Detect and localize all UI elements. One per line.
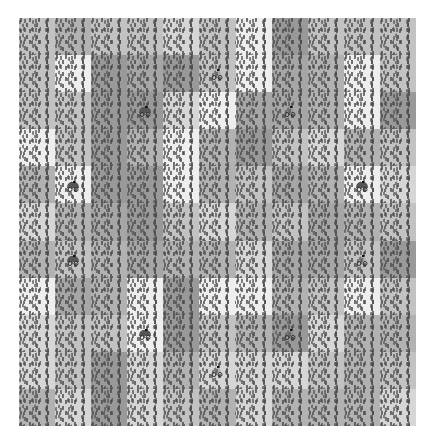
board-tile[interactable] <box>199 315 235 352</box>
board-tile[interactable] <box>236 92 272 129</box>
board-tile[interactable] <box>344 278 380 315</box>
board-tile[interactable] <box>380 55 416 92</box>
board-tile[interactable] <box>272 241 308 278</box>
board-tile[interactable] <box>272 55 308 92</box>
car-icon[interactable] <box>137 105 153 117</box>
board-tile[interactable] <box>91 389 127 426</box>
board-tile[interactable] <box>272 18 308 55</box>
board-tile[interactable] <box>127 241 163 278</box>
board-tile[interactable] <box>127 352 163 389</box>
board-tile[interactable] <box>380 352 416 389</box>
board-tile[interactable] <box>55 278 91 315</box>
board-tile[interactable] <box>199 129 235 166</box>
board-tile[interactable] <box>236 203 272 240</box>
board-tile[interactable] <box>380 315 416 352</box>
board-tile[interactable] <box>272 129 308 166</box>
board-tile[interactable] <box>55 315 91 352</box>
board-tile[interactable] <box>236 18 272 55</box>
board-tile[interactable] <box>272 166 308 203</box>
board-tile[interactable] <box>380 278 416 315</box>
board-tile[interactable] <box>308 389 344 426</box>
car-icon[interactable] <box>137 328 153 340</box>
board-tile[interactable] <box>91 92 127 129</box>
board-tile[interactable] <box>308 352 344 389</box>
board-tile[interactable] <box>308 18 344 55</box>
board-tile[interactable] <box>272 278 308 315</box>
board-tile[interactable] <box>19 18 55 55</box>
board-tile[interactable] <box>91 352 127 389</box>
board-tile[interactable] <box>308 55 344 92</box>
board-tile[interactable] <box>308 315 344 352</box>
car-icon[interactable] <box>282 328 298 340</box>
board-tile[interactable] <box>380 92 416 129</box>
board-tile[interactable] <box>236 129 272 166</box>
board-tile[interactable] <box>308 278 344 315</box>
board-tile[interactable] <box>199 241 235 278</box>
board-tile[interactable] <box>55 166 91 203</box>
board-tile[interactable] <box>344 166 380 203</box>
board-tile[interactable] <box>380 166 416 203</box>
board-tile[interactable] <box>308 241 344 278</box>
board-tile[interactable] <box>55 241 91 278</box>
board-tile[interactable] <box>236 352 272 389</box>
board-tile[interactable] <box>380 18 416 55</box>
board-tile[interactable] <box>163 315 199 352</box>
board-tile[interactable] <box>127 389 163 426</box>
board-tile[interactable] <box>344 129 380 166</box>
board-tile[interactable] <box>127 315 163 352</box>
board-tile[interactable] <box>163 129 199 166</box>
board-tile[interactable] <box>344 203 380 240</box>
board-tile[interactable] <box>308 203 344 240</box>
board-tile[interactable] <box>55 55 91 92</box>
board-tile[interactable] <box>272 92 308 129</box>
board-tile[interactable] <box>344 241 380 278</box>
board-tile[interactable] <box>55 203 91 240</box>
board-tile[interactable] <box>127 203 163 240</box>
board-tile[interactable] <box>199 166 235 203</box>
board-tile[interactable] <box>91 166 127 203</box>
board-tile[interactable] <box>55 389 91 426</box>
board-tile[interactable] <box>163 166 199 203</box>
board-tile[interactable] <box>344 352 380 389</box>
board-tile[interactable] <box>272 203 308 240</box>
board-tile[interactable] <box>199 18 235 55</box>
board-tile[interactable] <box>127 278 163 315</box>
board-tile[interactable] <box>199 389 235 426</box>
board-tile[interactable] <box>163 389 199 426</box>
game-board[interactable] <box>19 18 416 426</box>
car-icon[interactable] <box>65 254 81 266</box>
board-tile[interactable] <box>91 241 127 278</box>
board-tile[interactable] <box>19 315 55 352</box>
board-tile[interactable] <box>380 389 416 426</box>
board-tile[interactable] <box>380 203 416 240</box>
board-tile[interactable] <box>236 315 272 352</box>
board-tile[interactable] <box>127 92 163 129</box>
board-tile[interactable] <box>19 129 55 166</box>
car-icon[interactable] <box>354 180 370 192</box>
board-tile[interactable] <box>19 389 55 426</box>
car-icon[interactable] <box>282 105 298 117</box>
board-tile[interactable] <box>344 92 380 129</box>
board-tile[interactable] <box>199 92 235 129</box>
board-tile[interactable] <box>19 352 55 389</box>
board-tile[interactable] <box>344 55 380 92</box>
car-icon[interactable] <box>209 365 225 377</box>
board-tile[interactable] <box>91 55 127 92</box>
board-tile[interactable] <box>19 203 55 240</box>
board-tile[interactable] <box>19 241 55 278</box>
board-tile[interactable] <box>127 55 163 92</box>
board-tile[interactable] <box>308 129 344 166</box>
board-tile[interactable] <box>199 203 235 240</box>
board-tile[interactable] <box>55 18 91 55</box>
board-tile[interactable] <box>236 241 272 278</box>
board-tile[interactable] <box>91 203 127 240</box>
board-tile[interactable] <box>344 389 380 426</box>
board-tile[interactable] <box>91 18 127 55</box>
board-tile[interactable] <box>163 241 199 278</box>
board-tile[interactable] <box>19 92 55 129</box>
board-tile[interactable] <box>55 129 91 166</box>
car-icon[interactable] <box>65 180 81 192</box>
board-tile[interactable] <box>272 352 308 389</box>
board-tile[interactable] <box>199 278 235 315</box>
board-tile[interactable] <box>236 166 272 203</box>
